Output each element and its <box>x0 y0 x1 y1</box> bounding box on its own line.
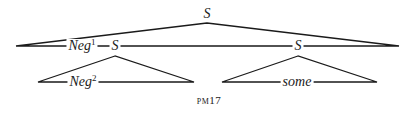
neg2-node: Neg2 <box>67 75 98 89</box>
root-s-label: S <box>204 6 211 21</box>
right-s-label: S <box>295 38 302 53</box>
left-subtree-triangle <box>38 56 194 82</box>
left-s-label: S <box>112 38 119 53</box>
neg1-superscript: 1 <box>91 37 96 47</box>
diagram-caption: pm17 <box>197 94 222 106</box>
neg1-node: Neg1 <box>66 39 97 53</box>
neg1-label: Neg <box>68 38 91 53</box>
neg2-superscript: 2 <box>92 73 97 83</box>
right-s-node: S <box>293 39 304 53</box>
neg2-label: Neg <box>69 74 92 89</box>
phrase-marker-diagram: S Neg1 S S Neg2 some pm17 <box>0 0 415 115</box>
left-s-node: S <box>110 39 121 53</box>
some-label: some <box>283 74 312 89</box>
root-s-node: S <box>202 7 213 21</box>
some-node: some <box>281 75 314 89</box>
